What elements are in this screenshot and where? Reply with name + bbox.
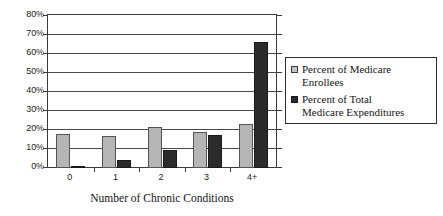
y-axis-tick-mark [43,110,47,111]
x-axis-tick-label: 3 [187,172,227,183]
legend-label-medicare-expenditures: Percent of Total Medicare Expenditures [302,93,404,118]
y-axis-tick-label: 0% [4,162,44,171]
bar-3-series-1 [193,132,207,168]
legend-item-medicare-enrollees: Percent of Medicare Enrollees [291,63,432,88]
chart-legend: Percent of Medicare Enrollees Percent of… [285,57,437,124]
y-axis-tick-label: 40% [4,86,44,95]
y-axis-tick-mark-right [277,167,282,168]
legend-item-medicare-expenditures: Percent of Total Medicare Expenditures [291,93,432,118]
x-axis-tick-mark [185,168,186,172]
y-axis-tick-label: 10% [4,143,44,152]
y-axis-tick-mark [43,129,47,130]
bar-4plus-series-1 [239,124,253,168]
y-axis-tick-label: 80% [4,10,44,19]
y-axis-tick-mark [43,15,47,16]
y-axis-tick-mark [43,72,47,73]
bar-2-series-2 [163,150,177,168]
y-axis-tick-mark-right [277,15,282,16]
y-axis-tick-mark-right [277,148,282,149]
y-axis: 0%10%20%30%40%50%60%70%80% [0,0,44,216]
y-axis-tick-mark-right [277,34,282,35]
legend-label-line-2: Enrollees [302,76,344,88]
bar-0-series-2 [71,166,85,168]
y-axis-tick-mark-right [277,129,282,130]
x-axis: 01234+ [47,172,277,186]
x-axis-tick-label: 1 [95,172,135,183]
y-axis-tick-mark-right [277,110,282,111]
x-axis-tick-mark [94,168,95,172]
legend-label-line-2: Medicare Expenditures [302,106,404,118]
x-axis-title: Number of Chronic Conditions [47,192,277,205]
y-axis-tick-mark [43,34,47,35]
y-axis-tick-label: 50% [4,67,44,76]
bar-0-series-1 [56,134,70,168]
y-axis-tick-label: 20% [4,124,44,133]
y-axis-tick-mark-right [277,91,282,92]
x-axis-tick-mark [230,168,231,172]
y-axis-tick-mark [43,148,47,149]
y-axis-tick-label: 30% [4,105,44,114]
bar-3-series-2 [208,135,222,168]
x-axis-tick-label: 4+ [232,172,272,183]
legend-swatch-light-gray-square [291,66,298,73]
y-axis-tick-mark [43,91,47,92]
bar-2-series-1 [148,127,162,168]
y-axis-tick-mark [43,53,47,54]
bar-4plus-series-2 [254,42,268,168]
y-axis-tick-label: 70% [4,29,44,38]
y-axis-tick-mark [43,167,47,168]
bar-1-series-2 [117,160,131,168]
y-axis-tick-mark-right [277,53,282,54]
legend-label-line-1: Percent of Medicare [302,63,391,75]
bars-layer [48,15,276,168]
x-axis-tick-label: 2 [141,172,181,183]
legend-label-medicare-enrollees: Percent of Medicare Enrollees [302,63,391,88]
y-axis-tick-label: 60% [4,48,44,57]
legend-label-line-1: Percent of Total [302,93,372,105]
x-axis-tick-label: 0 [50,172,90,183]
bar-chart-figure: 0%10%20%30%40%50%60%70%80% 01234+ Number… [0,0,443,216]
bar-1-series-1 [102,136,116,168]
y-axis-tick-mark-right [277,72,282,73]
legend-swatch-dark-square [291,96,298,103]
x-axis-tick-mark [139,168,140,172]
